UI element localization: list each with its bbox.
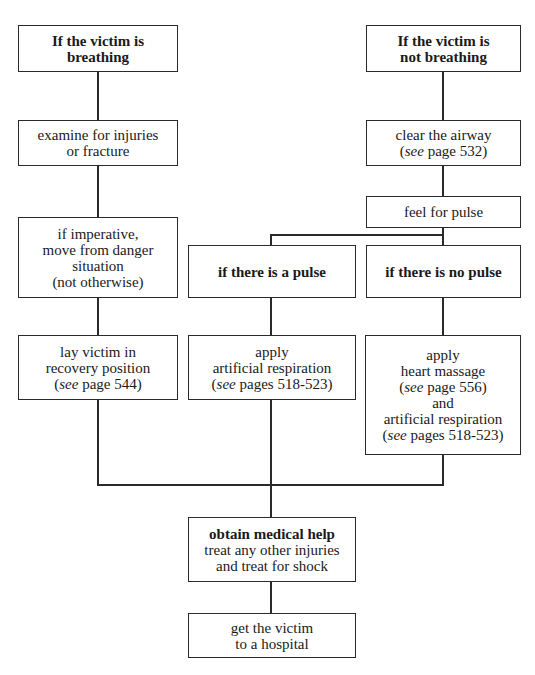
node-ref: (see pages 518-523) (212, 376, 333, 392)
see-italic: see (59, 376, 78, 392)
node-ref-text: page 556) (423, 379, 486, 395)
edge-notbreathing-airway (442, 71, 444, 120)
edge-massage-down (442, 454, 444, 486)
edge-examine-imperative (97, 165, 99, 217)
node-text: move from danger (43, 242, 154, 258)
node-text: recovery position (46, 360, 151, 376)
edge-pulse-branch (270, 234, 444, 236)
node-text: artificial respiration (384, 411, 503, 427)
edge-pulse-respiration (270, 297, 272, 335)
node-text: and treat for shock (216, 558, 328, 574)
see-italic: see (388, 427, 407, 443)
node-text: if there is no pulse (385, 264, 501, 280)
node-text: treat any other injuries (204, 542, 339, 558)
node-respiration: apply artificial respiration (see pages … (188, 335, 356, 400)
node-ref: (see page 532) (400, 143, 487, 159)
node-text: examine for injuries (38, 127, 159, 143)
see-italic: see (217, 376, 236, 392)
node-breathing: If the victim is breathing (18, 25, 178, 72)
node-text: not breathing (400, 49, 487, 65)
node-text: if there is a pulse (218, 264, 326, 280)
edge-branch-pulse (270, 234, 272, 245)
node-text: if imperative, (58, 226, 139, 242)
edge-medical-hospital (270, 581, 272, 613)
node-clear-airway: clear the airway (see page 532) (366, 120, 521, 166)
node-text: feel for pulse (404, 204, 483, 220)
node-text: artificial respiration (213, 360, 332, 376)
node-text: or fracture (67, 143, 130, 159)
node-ref-text: page 532) (424, 143, 487, 159)
node-text: apply (426, 347, 459, 363)
node-text: apply (255, 344, 288, 360)
node-ref-text: pages 518-523) (236, 376, 333, 392)
node-medical-help: obtain medical help treat any other inju… (188, 517, 356, 582)
edge-pulse-split (442, 227, 444, 245)
node-text: and (432, 395, 454, 411)
node-massage: apply heart massage (see page 556) and a… (365, 335, 521, 455)
node-feel-pulse: feel for pulse (366, 196, 521, 228)
edge-nopulse-massage (442, 297, 444, 335)
node-title: obtain medical help (209, 526, 335, 542)
edge-imperative-recovery (97, 297, 99, 335)
see-italic: see (405, 143, 424, 159)
node-text: to a hospital (235, 636, 308, 652)
edge-recovery-down (97, 399, 99, 486)
node-text: heart massage (401, 363, 486, 379)
node-not-breathing: If the victim is not breathing (366, 25, 521, 72)
node-imperative: if imperative, move from danger situatio… (18, 217, 178, 298)
edge-merge (97, 484, 444, 486)
node-text: If the victim is (397, 33, 489, 49)
node-text: clear the airway (396, 127, 492, 143)
node-ref: (see pages 518-523) (383, 427, 504, 443)
edge-breathing-examine (97, 71, 99, 121)
node-hospital: get the victim to a hospital (188, 613, 356, 658)
node-pulse: if there is a pulse (188, 245, 356, 298)
node-text: situation (72, 258, 124, 274)
node-recovery: lay victim in recovery position (see pag… (18, 335, 178, 400)
node-text: get the victim (231, 620, 313, 636)
node-examine: examine for injuries or fracture (18, 120, 178, 166)
node-ref: (see page 544) (54, 376, 141, 392)
node-text: If the victim is (52, 33, 144, 49)
node-ref: (see page 556) (399, 379, 486, 395)
node-text: breathing (67, 49, 129, 65)
edge-airway-pulse (442, 165, 444, 196)
edge-respiration-down (270, 399, 272, 517)
node-ref-text: page 544) (78, 376, 141, 392)
node-text: (not otherwise) (52, 274, 143, 290)
node-no-pulse: if there is no pulse (366, 245, 521, 298)
see-italic: see (404, 379, 423, 395)
node-text: lay victim in (60, 344, 136, 360)
node-ref-text: pages 518-523) (407, 427, 504, 443)
